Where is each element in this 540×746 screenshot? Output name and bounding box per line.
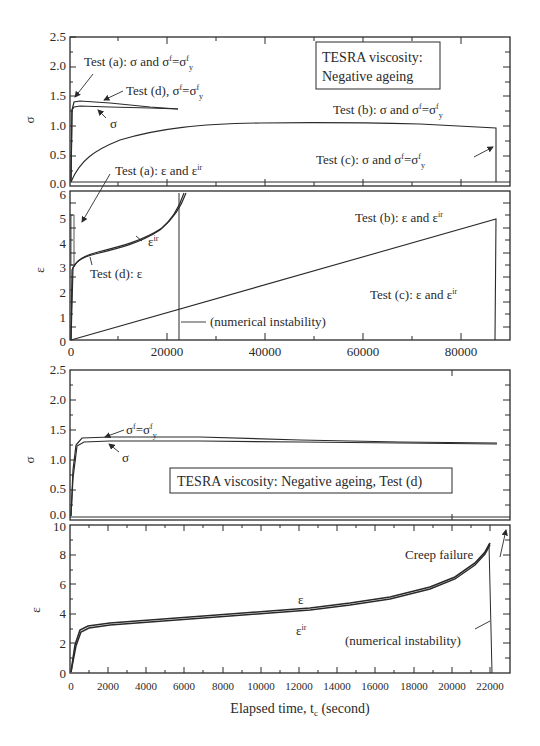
panel-bottom-sigma: 2.5 2.0 1.5 1.0 0.5 0.0 σ TESRA viscosit… bbox=[22, 362, 510, 522]
curve-epsilon-ir bbox=[71, 545, 490, 672]
panel-bottom-epsilon: 10 8 6 4 2 0 0 2000 4000 6000 8000 10000… bbox=[28, 519, 510, 718]
y-axis-label: ε bbox=[32, 267, 47, 273]
annotation-epsilon-ir: εir bbox=[148, 234, 159, 249]
annotation-test-c-epsilon: Test (c): ε and εir bbox=[370, 287, 457, 302]
y-tick-label: 1.5 bbox=[50, 422, 66, 437]
y-tick-label: 2 bbox=[60, 636, 67, 651]
panel-top-epsilon: 6 5 4 3 2 1 0 0 20000 40000 60000 80000 … bbox=[32, 163, 510, 359]
annotation-test-d-sigma-f: Test (d), σf=σfy bbox=[126, 83, 203, 101]
annotation-arrows bbox=[82, 174, 206, 322]
y-tick-label: 1.0 bbox=[50, 118, 66, 133]
x-tick-label: 40000 bbox=[249, 344, 282, 359]
y-tick-label: 1.0 bbox=[50, 452, 66, 467]
annotation-test-a-epsilon: Test (a): ε and εir bbox=[115, 163, 202, 178]
numerical-instability-line bbox=[489, 544, 492, 673]
x-tick-labels: 0 2000 4000 6000 8000 10000 12000 14000 … bbox=[68, 680, 504, 692]
figure: 2.5 2.0 1.5 1.0 0.5 0.0 σ TESRA viscosit… bbox=[0, 0, 540, 746]
curve-epsilon bbox=[71, 543, 490, 672]
box-text-line1: TESRA viscosity: bbox=[322, 50, 423, 65]
y-axis-label: σ bbox=[22, 116, 37, 123]
annotation-sigma: σ bbox=[122, 450, 129, 465]
annotation-test-b-sigma: Test (b): σ and σf=σfy bbox=[333, 102, 443, 120]
x-tick-label: 16000 bbox=[361, 680, 389, 692]
box-text-line2: Negative ageing bbox=[322, 69, 413, 84]
y-tick-label: 10 bbox=[53, 519, 66, 534]
x-tick-label: 14000 bbox=[323, 680, 351, 692]
panel-top-sigma: 2.5 2.0 1.5 1.0 0.5 0.0 σ TESRA viscosit… bbox=[22, 29, 510, 191]
x-tick-label: 8000 bbox=[212, 680, 235, 692]
annotation-test-d-epsilon: Test (d): ε bbox=[90, 266, 143, 281]
x-tick-label: 18000 bbox=[400, 680, 428, 692]
y-tick-label: 1 bbox=[60, 310, 67, 325]
x-tick-label: 10000 bbox=[247, 680, 275, 692]
y-tick-label: 0 bbox=[60, 334, 67, 349]
x-axis-label: Elapsed time, tc (second) bbox=[230, 701, 370, 718]
x-tick-label: 6000 bbox=[173, 680, 196, 692]
x-tick-label: 12000 bbox=[285, 680, 313, 692]
annotations: σf=σfy σ bbox=[122, 422, 157, 465]
y-tick-label: 0.5 bbox=[50, 147, 66, 162]
y-tick-labels: 2.5 2.0 1.5 1.0 0.5 0.0 bbox=[50, 362, 66, 522]
y-tick-labels: 2.5 2.0 1.5 1.0 0.5 0.0 bbox=[50, 29, 66, 191]
annotation-epsilon: ε bbox=[298, 592, 304, 607]
plot-frame bbox=[70, 370, 510, 520]
x-tick-label: 60000 bbox=[347, 344, 380, 359]
y-tick-label: 1.5 bbox=[50, 88, 66, 103]
annotation-sigma: σ bbox=[110, 116, 117, 131]
y-tick-label: 8 bbox=[60, 547, 67, 562]
annotation-numerical-instability: (numerical instability) bbox=[345, 633, 461, 648]
ticks bbox=[70, 370, 510, 520]
y-tick-label: 2.5 bbox=[50, 362, 66, 377]
y-tick-label: 6 bbox=[60, 187, 67, 202]
y-tick-label: 0.5 bbox=[50, 481, 66, 496]
box-text: TESRA viscosity: Negative ageing, Test (… bbox=[177, 474, 423, 490]
y-tick-label: 0 bbox=[60, 666, 67, 681]
annotation-numerical-instability: (numerical instability) bbox=[210, 314, 326, 329]
annotation-test-c-sigma: Test (c): σ and σf=σfy bbox=[316, 152, 425, 170]
x-tick-label: 2000 bbox=[97, 680, 120, 692]
x-tick-labels: 0 20000 40000 60000 80000 bbox=[68, 344, 478, 359]
y-tick-label: 2.0 bbox=[50, 58, 66, 73]
x-tick-label: 0 bbox=[68, 680, 74, 692]
annotation-test-b-epsilon: Test (b): ε and εir bbox=[355, 210, 443, 225]
y-tick-label: 6 bbox=[60, 577, 67, 592]
x-tick-label: 80000 bbox=[445, 344, 478, 359]
y-tick-label: 2 bbox=[60, 285, 67, 300]
y-tick-labels: 6 5 4 3 2 1 0 bbox=[60, 187, 67, 349]
y-tick-label: 3 bbox=[60, 260, 67, 275]
x-tick-label: 0 bbox=[68, 344, 75, 359]
y-tick-label: 4 bbox=[60, 236, 67, 251]
annotation-test-a-sigma: Test (a): σ and σf=σfy bbox=[84, 54, 193, 72]
x-tick-label: 22000 bbox=[476, 680, 504, 692]
y-tick-labels: 10 8 6 4 2 0 bbox=[53, 519, 67, 681]
x-tick-label: 20000 bbox=[151, 344, 184, 359]
y-tick-label: 4 bbox=[60, 606, 67, 621]
y-tick-label: 2.5 bbox=[50, 29, 66, 44]
annotation-creep-failure: Creep failure bbox=[405, 547, 473, 562]
y-axis-label: ε bbox=[28, 607, 43, 613]
x-tick-label: 4000 bbox=[135, 680, 158, 692]
y-axis-label: σ bbox=[22, 456, 37, 463]
annotation-epsilon-ir: εir bbox=[296, 623, 307, 638]
y-tick-label: 2.0 bbox=[50, 392, 66, 407]
y-tick-label: 5 bbox=[60, 211, 67, 226]
x-tick-label: 20000 bbox=[438, 680, 466, 692]
